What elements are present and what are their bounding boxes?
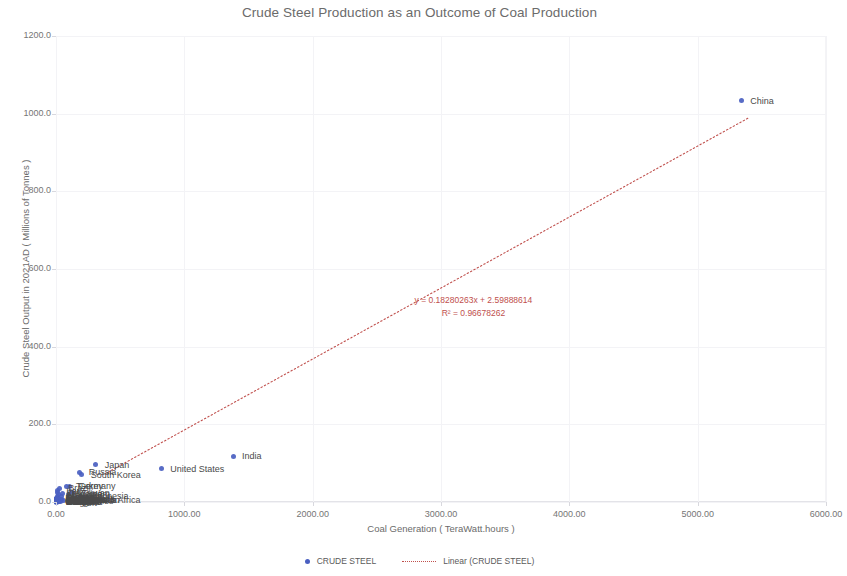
legend-marker-dotted-line-icon	[402, 561, 436, 562]
trendline-equation-annotation: y = 0.18280263x + 2.59888614 R² = 0.9667…	[415, 294, 533, 320]
gridline-vertical	[698, 36, 699, 502]
y-axis-tickmark	[52, 269, 56, 270]
x-axis-title: Coal Generation ( TeraWatt.hours )	[56, 523, 826, 534]
y-axis-tick-label: 600.0	[0, 263, 51, 273]
y-axis-tickmark	[52, 36, 56, 37]
data-point-label: Israel	[66, 497, 88, 507]
x-axis-tick-label: 1000.00	[144, 509, 224, 519]
gridline-vertical	[56, 36, 57, 502]
y-axis-tickmark	[52, 347, 56, 348]
x-axis-tick-label: 4000.00	[529, 509, 609, 519]
x-axis-tick-label: 3000.00	[401, 509, 481, 519]
data-point-label: India	[242, 451, 262, 461]
x-axis-tick-label: 0.00	[16, 509, 96, 519]
x-axis-tickmark	[698, 502, 699, 506]
trendline-equation-text: y = 0.18280263x + 2.59888614	[415, 294, 533, 307]
gridline-vertical	[569, 36, 570, 502]
y-axis-tickmark	[52, 191, 56, 192]
y-axis-tick-label: 1200.0	[0, 30, 51, 40]
x-axis-tickmark	[184, 502, 185, 506]
y-axis-tick-label: 400.0	[0, 341, 51, 351]
x-axis-tickmark	[826, 502, 827, 506]
legend-item-crude-steel[interactable]: CRUDE STEEL	[305, 556, 377, 566]
x-axis-tick-label: 5000.00	[658, 509, 738, 519]
gridline-vertical	[184, 36, 185, 502]
gridline-vertical	[441, 36, 442, 502]
legend-label-linear-trendline: Linear (CRUDE STEEL)	[443, 556, 534, 566]
y-axis-tick-label: 1000.0	[0, 108, 51, 118]
x-axis-tick-label: 2000.00	[273, 509, 353, 519]
legend-label-crude-steel: CRUDE STEEL	[317, 556, 377, 566]
data-point[interactable]	[231, 454, 236, 459]
legend-item-linear-trendline[interactable]: Linear (CRUDE STEEL)	[402, 556, 534, 566]
data-point[interactable]	[159, 466, 164, 471]
data-point-label: United States	[170, 464, 224, 474]
plot-area: ChinaIndiaJapanUnited StatesRussiaSouth …	[56, 36, 826, 502]
y-axis-tick-label: 800.0	[0, 185, 51, 195]
x-axis-tick-label: 6000.00	[786, 509, 847, 519]
legend-marker-dot-icon	[305, 559, 310, 564]
x-axis-tickmark	[441, 502, 442, 506]
data-point-label: South Korea	[91, 470, 141, 480]
gridline-vertical	[826, 36, 827, 502]
y-axis-tick-label: 200.0	[0, 418, 51, 428]
data-point-label: China	[750, 96, 774, 106]
x-axis-tickmark	[56, 502, 57, 506]
y-axis-tickmark	[52, 424, 56, 425]
chart-legend: CRUDE STEEL Linear (CRUDE STEEL)	[0, 556, 839, 566]
gridline-vertical	[313, 36, 314, 502]
chart-title: Crude Steel Production as an Outcome of …	[0, 5, 839, 20]
y-axis-tickmark	[52, 114, 56, 115]
x-axis-tickmark	[569, 502, 570, 506]
x-axis-tickmark	[313, 502, 314, 506]
y-axis-tick-label: 0.0	[0, 496, 51, 506]
trendline-r2-text: R² = 0.96678262	[415, 307, 533, 320]
